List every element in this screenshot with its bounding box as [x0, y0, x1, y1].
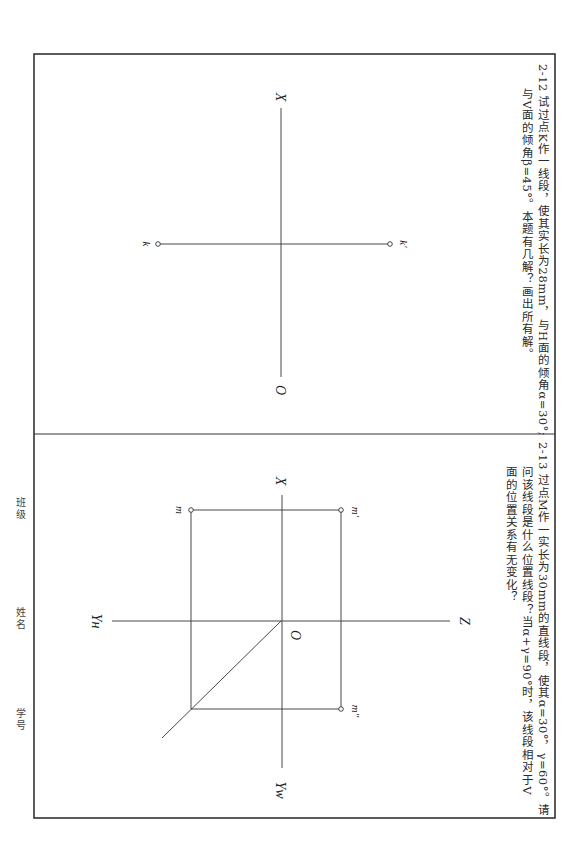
point-m-double-prime — [339, 707, 344, 712]
label-x-axis-2-12: X — [273, 92, 288, 102]
name-field-label: 姓名 — [12, 607, 27, 631]
page-frame — [34, 54, 555, 818]
problem-2-12-diagram — [156, 108, 393, 377]
problem-text: 与V面的倾角β=45°。本题有几解？画出所有解。 — [520, 88, 534, 361]
problem-number: 2-12 — [536, 64, 550, 92]
problem-text: 问该线段是什么位置线段？当α+γ=90°时，该线段相对于V — [520, 466, 534, 795]
class-field-label: 班级 — [12, 497, 27, 521]
point-k-prime — [388, 242, 393, 247]
problem-text: 面的位置关系有无变化？ — [504, 466, 518, 604]
worksheet-page: X O k k′ X Z O Yн Yw m m′ m″ 2-12 试过点K作一… — [0, 0, 587, 845]
label-origin-2-12: O — [273, 385, 288, 395]
label-z-axis: Z — [457, 617, 472, 625]
problem-2-13-line1: 2-13 过点M作一实长为30mm的直线段，使其α=30°，γ=60°。请 — [535, 442, 551, 817]
label-m-prime: m′ — [350, 507, 362, 518]
point-m — [189, 508, 194, 513]
label-origin-2-13: O — [288, 630, 303, 640]
label-yw-axis: Yw — [273, 781, 288, 799]
problem-2-13-line2: 问该线段是什么位置线段？当α+γ=90°时，该线段相对于V — [519, 466, 535, 795]
drawing-canvas: X O k k′ X Z O Yн Yw m m′ m″ — [0, 0, 587, 845]
problem-2-12-line1: 2-12 试过点K作一线段，使其实长为28mm，与H面的倾角α=30°; — [535, 64, 551, 436]
label-yh-axis: Yн — [89, 614, 104, 629]
problem-text: 试过点K作一线段，使其实长为28mm，与H面的倾角α=30°; — [536, 96, 550, 436]
problem-text: 过点M作一实长为30mm的直线段，使其α=30°，γ=60°。请 — [536, 474, 550, 817]
miter-line-45deg — [162, 621, 281, 738]
student-id-field-label: 学号 — [12, 708, 27, 732]
label-k-prime: k′ — [398, 240, 410, 248]
point-k — [156, 242, 161, 247]
point-m-prime — [339, 508, 344, 513]
problem-2-13-line3: 面的位置关系有无变化？ — [503, 466, 519, 604]
problem-2-12-line2: 与V面的倾角β=45°。本题有几解？画出所有解。 — [519, 88, 535, 361]
label-m: m — [174, 506, 186, 514]
problem-2-13-diagram — [112, 495, 450, 768]
problem-number: 2-13 — [536, 442, 550, 470]
label-x-axis-2-13: X — [273, 476, 288, 486]
label-k: k — [141, 242, 153, 248]
label-m-double-prime: m″ — [350, 705, 362, 718]
